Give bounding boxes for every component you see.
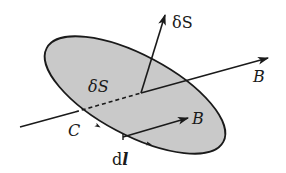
field-line-b-left <box>20 112 75 127</box>
label-field-b-outer: B <box>252 67 265 86</box>
label-curve-c: C <box>68 121 80 140</box>
surface-element <box>28 13 242 173</box>
curve-direction-arrow-1 <box>92 123 98 127</box>
label-surface-ds: δS <box>88 77 109 96</box>
diagram: δS δS B B C dl <box>0 0 286 173</box>
label-field-b-inner: B <box>191 109 204 128</box>
label-line-element-dl: dl <box>112 150 128 169</box>
label-normal-ds: δS <box>172 13 193 32</box>
